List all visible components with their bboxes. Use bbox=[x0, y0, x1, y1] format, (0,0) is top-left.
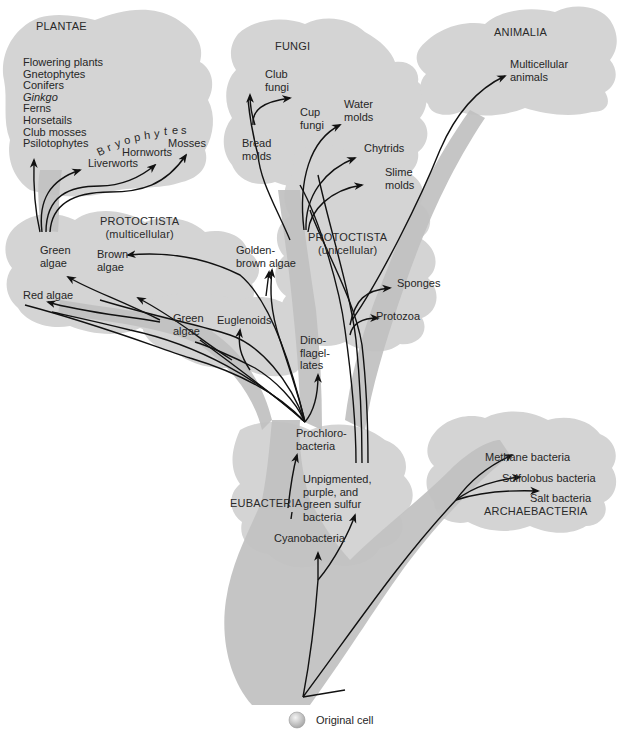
kingdom-protoctista-multicellular-label: PROTOCTISTA (multicellular) bbox=[100, 215, 179, 240]
label-club-fungi: Club fungi bbox=[265, 68, 289, 93]
bryophytes-letter: s bbox=[181, 124, 187, 136]
label-sponges: Sponges bbox=[397, 277, 440, 290]
label-line: Green bbox=[40, 244, 71, 257]
label-line: Brown bbox=[97, 248, 128, 261]
bryophytes-letter: h bbox=[143, 129, 150, 142]
label-line: animals bbox=[510, 71, 568, 84]
label-line: brown algae bbox=[236, 257, 296, 270]
label-line: Bread bbox=[242, 137, 271, 150]
bryophytes-letter: t bbox=[164, 125, 167, 137]
bryophytes-letter: e bbox=[172, 124, 178, 136]
label-slime-molds: Slime molds bbox=[385, 166, 414, 191]
label-prochlorobacteria: Prochloro- bacteria bbox=[296, 427, 347, 452]
label-dinoflagellates: Dino- flagel- lates bbox=[300, 334, 330, 372]
label-line: Multicellular bbox=[510, 58, 568, 71]
label-unpigmented-bacteria: Unpigmented, purple, and green sulfur ba… bbox=[303, 473, 372, 523]
label-line: PROTOCTISTA bbox=[308, 231, 387, 244]
label-line: Dino- bbox=[300, 334, 330, 347]
label-salt-bacteria: Salt bacteria bbox=[530, 492, 591, 505]
kingdom-fungi-label: FUNGI bbox=[275, 40, 310, 53]
label-line: (multicellular) bbox=[100, 228, 179, 241]
trunk-bands bbox=[38, 110, 510, 705]
label-line: Slime bbox=[385, 166, 414, 179]
label-line: algae bbox=[97, 261, 128, 274]
label-line: green sulfur bbox=[303, 498, 372, 511]
label-cup-fungi: Cup fungi bbox=[300, 106, 324, 131]
label-brown-algae: Brown algae bbox=[97, 248, 128, 273]
label-hornworts: Hornworts bbox=[122, 146, 172, 159]
label-bread-molds: Bread molds bbox=[242, 137, 271, 162]
label-line: Water bbox=[344, 98, 373, 111]
kingdom-eubacteria-label: EUBACTERIA bbox=[230, 497, 302, 510]
legend-original-cell-label: Original cell bbox=[316, 714, 373, 727]
original-cell-icon bbox=[289, 712, 305, 728]
kingdom-archaebacteria-label: ARCHAEBACTERIA bbox=[484, 505, 588, 518]
plant-psilotophytes: Psilotophytes bbox=[23, 138, 103, 150]
label-water-molds: Water molds bbox=[344, 98, 373, 123]
label-line: bacteria bbox=[303, 511, 372, 524]
label-line: Cup bbox=[300, 106, 324, 119]
label-line: Green bbox=[173, 312, 204, 325]
label-euglenoids: Euglenoids bbox=[217, 314, 271, 327]
label-line: Unpigmented, bbox=[303, 473, 372, 486]
label-golden-brown-algae: Golden- brown algae bbox=[236, 244, 296, 269]
label-line: Prochloro- bbox=[296, 427, 347, 440]
plant-flowering: Flowering plants bbox=[23, 57, 103, 69]
bryophytes-letter: y bbox=[154, 127, 160, 139]
label-line: lates bbox=[300, 359, 330, 372]
kingdom-animalia-label: ANIMALIA bbox=[494, 26, 547, 39]
label-multicellular-animals: Multicellular animals bbox=[510, 58, 568, 83]
label-line: molds bbox=[344, 111, 373, 124]
label-liverworts: Liverworts bbox=[88, 157, 138, 170]
label-cyanobacteria: Cyanobacteria bbox=[274, 532, 345, 545]
label-line: (unicellular) bbox=[308, 244, 387, 257]
label-line: PROTOCTISTA bbox=[100, 215, 179, 228]
label-line: algae bbox=[40, 257, 71, 270]
label-red-algae: Red algae bbox=[23, 289, 73, 302]
label-green-algae-plant: Green algae bbox=[40, 244, 71, 269]
label-mosses: Mosses bbox=[168, 137, 206, 150]
label-line: molds bbox=[385, 179, 414, 192]
plant-horsetails: Horsetails bbox=[23, 115, 103, 127]
label-chytrids: Chytrids bbox=[364, 142, 404, 155]
label-line: bacteria bbox=[296, 440, 347, 453]
label-methane-bacteria: Methane bacteria bbox=[485, 451, 570, 464]
label-line: Golden- bbox=[236, 244, 296, 257]
label-line: algae bbox=[173, 325, 204, 338]
kingdom-plantae-label: PLANTAE bbox=[36, 20, 87, 33]
label-line: flagel- bbox=[300, 347, 330, 360]
label-line: molds bbox=[242, 150, 271, 163]
label-green-algae-protist: Green algae bbox=[173, 312, 204, 337]
plantae-group-list: Flowering plants Gnetophytes Conifers Gi… bbox=[23, 57, 103, 150]
label-line: fungi bbox=[300, 119, 324, 132]
label-protozoa: Protozoa bbox=[376, 310, 420, 323]
label-line: Club bbox=[265, 68, 289, 81]
label-sulfolobus-bacteria: Sulfolobus bacteria bbox=[502, 472, 596, 485]
label-line: fungi bbox=[265, 81, 289, 94]
kingdom-protoctista-unicellular-label: PROTOCTISTA (unicellular) bbox=[308, 231, 387, 256]
label-line: purple, and bbox=[303, 486, 372, 499]
